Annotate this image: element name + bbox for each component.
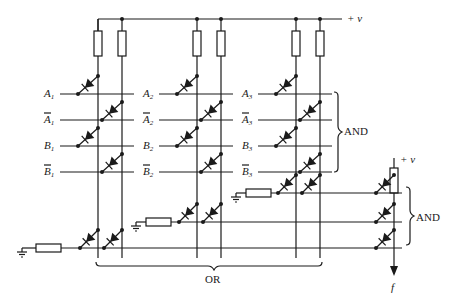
junction-dot bbox=[195, 126, 199, 130]
junction-dot bbox=[274, 144, 278, 148]
junction-dot bbox=[199, 118, 203, 122]
junction-dot bbox=[76, 144, 80, 148]
pulldown-resistor bbox=[36, 244, 61, 252]
junction-dot bbox=[274, 92, 278, 96]
junction-dot bbox=[318, 100, 322, 104]
junction-dot bbox=[276, 191, 280, 195]
junction-dot bbox=[219, 152, 223, 156]
pullup-resistor bbox=[316, 31, 324, 56]
junction-dot bbox=[294, 173, 298, 177]
input-label-b1: B1 bbox=[44, 139, 54, 153]
junction-dot bbox=[298, 118, 302, 122]
circuit-svg: + v OR AND + v f AND A1A1B1B1A2A2B2B2A3A… bbox=[0, 0, 455, 298]
junction-dot bbox=[120, 152, 124, 156]
junction-dot bbox=[318, 173, 322, 177]
junction-dot bbox=[120, 100, 124, 104]
junction-dot bbox=[374, 220, 378, 224]
junction-dot bbox=[374, 246, 378, 250]
junction-dot bbox=[318, 152, 322, 156]
pullup-resistor bbox=[193, 31, 201, 56]
junction-dot bbox=[175, 92, 179, 96]
junction-dot bbox=[374, 191, 378, 195]
junction-dot bbox=[96, 228, 100, 232]
junction-dot bbox=[175, 144, 179, 148]
input-label-a3: A3 bbox=[241, 87, 253, 101]
pullup-resistor bbox=[94, 31, 102, 56]
pullup-resistor bbox=[118, 31, 126, 56]
junction-dot bbox=[195, 202, 199, 206]
pulldown-resistor bbox=[146, 218, 171, 226]
input-label-b3-bar: B3 bbox=[242, 165, 253, 179]
junction-dot bbox=[201, 220, 205, 224]
supply-label-top: + v bbox=[347, 12, 362, 24]
input-label-a3-bar: A3 bbox=[241, 113, 253, 127]
pullup-resistor bbox=[292, 31, 300, 56]
or-label: OR bbox=[205, 273, 221, 285]
output-resistor bbox=[390, 168, 398, 193]
input-label-b1-bar: B1 bbox=[44, 165, 54, 179]
supply-label-output: + v bbox=[400, 153, 415, 165]
junction-dot bbox=[219, 202, 223, 206]
junction-dot bbox=[392, 228, 396, 232]
input-label-a1-bar: A1 bbox=[43, 113, 54, 127]
junction-dot bbox=[102, 246, 106, 250]
junction-dot bbox=[96, 74, 100, 78]
junction-dot bbox=[78, 246, 82, 250]
junction-dot bbox=[392, 202, 396, 206]
junction-dot bbox=[76, 92, 80, 96]
pullup-resistor bbox=[217, 31, 225, 56]
junction-dot bbox=[120, 228, 124, 232]
or-bracket bbox=[96, 262, 322, 270]
input-label-a1: A1 bbox=[43, 87, 54, 101]
junction-dot bbox=[300, 191, 304, 195]
junction-dot bbox=[294, 74, 298, 78]
junction-dot bbox=[298, 170, 302, 174]
junction-dot bbox=[96, 126, 100, 130]
junction-dot bbox=[177, 220, 181, 224]
junction-dot bbox=[100, 170, 104, 174]
junction-dot bbox=[195, 74, 199, 78]
output-label: f bbox=[391, 281, 396, 293]
input-label-a2-bar: A2 bbox=[142, 113, 154, 127]
input-label-b2: B2 bbox=[143, 139, 154, 153]
and-bracket-inputs bbox=[334, 92, 342, 172]
pulldown-resistor bbox=[246, 189, 271, 197]
junction-dot bbox=[392, 173, 396, 177]
diode-logic-circuit-diagram: + v OR AND + v f AND A1A1B1B1A2A2B2B2A3A… bbox=[0, 0, 455, 298]
input-label-b3: B3 bbox=[242, 139, 253, 153]
input-label-b2-bar: B2 bbox=[143, 165, 154, 179]
input-label-a2: A2 bbox=[142, 87, 154, 101]
and-bracket-output bbox=[406, 187, 414, 245]
junction-dot bbox=[219, 100, 223, 104]
and-label-inputs: AND bbox=[344, 125, 368, 137]
and-label-output: AND bbox=[416, 211, 440, 223]
output-arrow-icon bbox=[390, 266, 398, 276]
junction-dot bbox=[294, 126, 298, 130]
junction-dot bbox=[100, 118, 104, 122]
junction-dot bbox=[199, 170, 203, 174]
